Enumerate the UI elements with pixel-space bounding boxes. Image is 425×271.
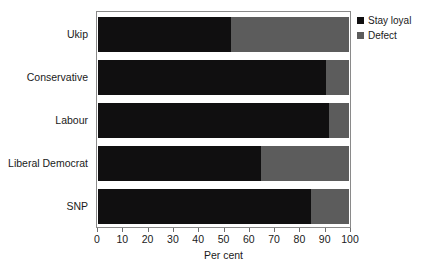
bar-segment-stay-loyal <box>98 17 231 52</box>
y-axis-label-conservative: Conservative <box>27 71 88 83</box>
x-axis-tick-mark <box>198 228 199 232</box>
x-axis-tick-mark <box>325 228 326 232</box>
x-axis-tick-label-80: 80 <box>294 233 306 245</box>
x-axis-tick-label-100: 100 <box>341 233 359 245</box>
bar-track <box>98 103 349 138</box>
chart-legend: Stay loyalDefect <box>357 14 425 44</box>
bar-track <box>98 189 349 224</box>
stacked-bar-chart: UkipConservativeLabourLiberal DemocratSN… <box>0 0 425 271</box>
bar-track <box>98 60 349 95</box>
bar-segment-defect <box>329 103 349 138</box>
x-axis-tick-mark <box>224 228 225 232</box>
x-axis-tick-label-30: 30 <box>167 233 179 245</box>
x-axis-tick-mark <box>274 228 275 232</box>
x-axis-title: Per cent <box>96 249 351 262</box>
bar-segment-stay-loyal <box>98 103 329 138</box>
bar-row <box>98 17 349 52</box>
x-axis: 0102030405060708090100 <box>96 228 351 250</box>
bar-segment-stay-loyal <box>98 189 311 224</box>
bar-row <box>98 189 349 224</box>
plot-area <box>96 11 351 228</box>
x-axis-tick-label-60: 60 <box>243 233 255 245</box>
legend-swatch-icon <box>357 32 364 39</box>
y-axis-category-labels: UkipConservativeLabourLiberal DemocratSN… <box>0 11 92 228</box>
bar-track <box>98 146 349 181</box>
x-axis-tick-label-70: 70 <box>268 233 280 245</box>
x-axis-tick-label-90: 90 <box>319 233 331 245</box>
legend-item-stay-loyal[interactable]: Stay loyal <box>357 14 425 27</box>
bar-segment-stay-loyal <box>98 60 326 95</box>
legend-label: Stay loyal <box>368 15 411 27</box>
y-axis-label-liberal-democrat: Liberal Democrat <box>8 157 88 169</box>
y-axis-label-snp: SNP <box>66 200 88 212</box>
bar-segment-stay-loyal <box>98 146 261 181</box>
bar-row <box>98 103 349 138</box>
legend-swatch-icon <box>357 17 364 24</box>
legend-label: Defect <box>368 30 397 42</box>
y-axis-label-labour: Labour <box>55 114 88 126</box>
bar-segment-defect <box>326 60 349 95</box>
x-axis-tick-label-0: 0 <box>94 233 100 245</box>
legend-item-defect[interactable]: Defect <box>357 29 425 42</box>
bar-segment-defect <box>311 189 349 224</box>
y-axis-label-ukip: Ukip <box>67 28 88 40</box>
bar-segment-defect <box>261 146 349 181</box>
plot-inner <box>98 13 349 226</box>
x-axis-tick-label-40: 40 <box>192 233 204 245</box>
x-axis-tick-mark <box>350 228 351 232</box>
x-axis-tick-mark <box>173 228 174 232</box>
bar-track <box>98 17 349 52</box>
x-axis-tick-mark <box>148 228 149 232</box>
bar-segment-defect <box>231 17 349 52</box>
x-axis-tick-mark <box>299 228 300 232</box>
x-axis-tick-label-20: 20 <box>142 233 154 245</box>
x-axis-tick-mark <box>97 228 98 232</box>
x-axis-tick-mark <box>249 228 250 232</box>
x-axis-tick-label-10: 10 <box>116 233 128 245</box>
bar-row <box>98 146 349 181</box>
x-axis-tick-label-50: 50 <box>218 233 230 245</box>
x-axis-tick-mark <box>122 228 123 232</box>
bar-row <box>98 60 349 95</box>
